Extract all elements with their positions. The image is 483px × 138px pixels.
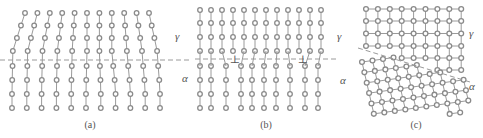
atom-icon bbox=[447, 56, 452, 61]
atom-icon bbox=[128, 92, 133, 97]
atom-icon bbox=[391, 55, 396, 60]
atom-icon bbox=[375, 79, 380, 84]
atom-icon bbox=[126, 64, 131, 69]
atom-icon bbox=[11, 49, 16, 54]
atom-icon bbox=[124, 36, 129, 41]
atom-icon bbox=[97, 23, 102, 28]
atom-icon bbox=[411, 31, 416, 36]
atom-icon bbox=[239, 78, 244, 83]
atom-icon bbox=[447, 44, 452, 49]
atom-icon bbox=[70, 64, 75, 69]
atom-icon bbox=[147, 11, 152, 16]
atom-icon bbox=[239, 106, 244, 111]
atom-icon bbox=[209, 8, 214, 13]
atom-icon bbox=[209, 92, 214, 97]
atom-icon bbox=[286, 21, 291, 26]
atom-icon bbox=[209, 35, 214, 40]
atom-icon bbox=[39, 106, 44, 111]
atom-icon bbox=[15, 36, 20, 41]
atom-icon bbox=[399, 56, 404, 61]
atom-icon bbox=[32, 23, 37, 28]
atom-icon bbox=[25, 64, 30, 69]
atom-icon bbox=[288, 106, 293, 111]
atom-icon bbox=[242, 35, 247, 40]
atom-icon bbox=[382, 110, 387, 115]
atom-icon bbox=[419, 83, 424, 88]
atom-icon bbox=[143, 92, 148, 97]
atom-icon bbox=[413, 106, 418, 111]
dislocation-icon: ⊥ bbox=[298, 53, 308, 65]
atom-icon bbox=[390, 98, 395, 103]
atom-icon bbox=[388, 88, 393, 93]
atom-icon bbox=[40, 49, 45, 54]
atom-icon bbox=[85, 11, 90, 16]
atom-icon bbox=[404, 64, 409, 69]
atom-icon bbox=[239, 92, 244, 97]
atom-icon bbox=[224, 106, 229, 111]
atom-icon bbox=[447, 68, 452, 73]
atom-icon bbox=[125, 49, 130, 54]
atom-icon bbox=[113, 92, 118, 97]
atom-icon bbox=[455, 100, 460, 105]
atom-icon bbox=[316, 106, 321, 111]
dislocation-icon: ⊥ bbox=[230, 53, 240, 65]
atom-icon bbox=[464, 88, 469, 93]
atom-icon bbox=[423, 7, 428, 12]
atom-icon bbox=[29, 36, 34, 41]
atom-icon bbox=[288, 92, 293, 97]
atom-icon bbox=[253, 21, 258, 26]
atom-icon bbox=[453, 89, 458, 94]
atom-icon bbox=[231, 21, 236, 26]
atom-icon bbox=[411, 95, 416, 100]
atom-icon bbox=[364, 44, 369, 49]
atom-icon bbox=[136, 23, 141, 28]
atom-icon bbox=[274, 92, 279, 97]
atom-icon bbox=[364, 7, 369, 12]
atom-icon bbox=[432, 92, 437, 97]
atom-icon bbox=[303, 106, 308, 111]
atom-icon bbox=[198, 35, 203, 40]
atom-icon bbox=[43, 36, 48, 41]
atom-icon bbox=[250, 106, 255, 111]
atom-icon bbox=[387, 19, 392, 24]
atom-icon bbox=[274, 78, 279, 83]
atom-icon bbox=[128, 106, 133, 111]
atom-icon bbox=[303, 92, 308, 97]
atom-icon bbox=[209, 78, 214, 83]
atom-icon bbox=[220, 21, 225, 26]
atom-icon bbox=[275, 21, 280, 26]
atom-icon bbox=[85, 36, 90, 41]
atom-icon bbox=[445, 101, 450, 106]
atom-icon bbox=[422, 94, 427, 99]
atom-icon bbox=[152, 36, 157, 41]
panel-c-gamma-label: γ bbox=[469, 27, 474, 39]
atom-icon bbox=[319, 35, 324, 40]
atom-icon bbox=[403, 107, 408, 112]
atom-icon bbox=[198, 8, 203, 13]
atom-icon bbox=[58, 23, 63, 28]
atom-icon bbox=[158, 92, 163, 97]
atom-icon bbox=[10, 92, 15, 97]
atom-icon bbox=[459, 7, 464, 12]
atom-icon bbox=[10, 106, 15, 111]
atom-icon bbox=[316, 92, 321, 97]
atom-icon bbox=[155, 49, 160, 54]
atom-icon bbox=[72, 11, 77, 16]
atom-icon bbox=[435, 19, 440, 24]
atom-icon bbox=[60, 11, 65, 16]
atom-icon bbox=[25, 106, 30, 111]
atom-icon bbox=[424, 104, 429, 109]
atom-icon bbox=[447, 7, 452, 12]
atom-icon bbox=[371, 111, 376, 116]
atom-icon bbox=[399, 19, 404, 24]
atom-icon bbox=[242, 8, 247, 13]
atom-icon bbox=[112, 78, 117, 83]
atom-icon bbox=[220, 8, 225, 13]
atom-icon bbox=[362, 70, 367, 75]
atom-icon bbox=[48, 11, 53, 16]
atom-icon bbox=[140, 49, 145, 54]
atom-icon bbox=[459, 19, 464, 24]
atom-icon bbox=[459, 68, 464, 73]
atom-icon bbox=[143, 106, 148, 111]
atom-icon bbox=[10, 78, 15, 83]
